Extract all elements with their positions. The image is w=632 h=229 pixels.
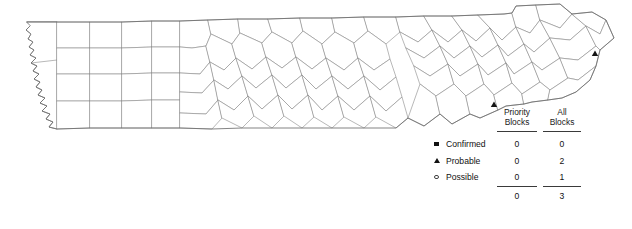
legend-row-possible: Possible: [432, 169, 494, 186]
legend-row-confirmed: Confirmed: [432, 136, 494, 153]
value-possible-priority: 0: [494, 169, 540, 186]
value-probable-all: 2: [540, 152, 584, 169]
filled-square-icon: [432, 140, 441, 149]
legend-label-probable: Probable: [446, 156, 480, 166]
total-all-blocks: 3: [540, 190, 584, 201]
legend-row-probable: Probable: [432, 152, 494, 169]
filled-triangle-icon: [432, 156, 441, 165]
column-header-all-blocks: All Blocks: [540, 108, 584, 129]
value-probable-priority: 0: [494, 152, 540, 169]
value-confirmed-all: 0: [540, 136, 584, 153]
column-header-all-line2: Blocks: [540, 118, 584, 128]
column-header-priority-line2: Blocks: [494, 118, 540, 128]
legend-header-spacer: [432, 108, 494, 129]
total-label-spacer: [432, 190, 494, 201]
header-rule-spacer: [432, 129, 494, 136]
value-possible-all: 1: [540, 169, 584, 186]
header-rule-all: [540, 129, 584, 136]
value-confirmed-priority: 0: [494, 136, 540, 153]
open-circle-icon: [432, 173, 441, 182]
column-header-priority-blocks: Priority Blocks: [494, 108, 540, 129]
map-page: Priority Blocks All Blocks Confirmed 0 0…: [0, 0, 632, 229]
header-rule-priority: [494, 129, 540, 136]
legend-label-possible: Possible: [446, 172, 478, 182]
legend-tally-table: Priority Blocks All Blocks Confirmed 0 0…: [432, 108, 584, 202]
legend-label-confirmed: Confirmed: [446, 139, 486, 149]
total-priority-blocks: 0: [494, 190, 540, 201]
